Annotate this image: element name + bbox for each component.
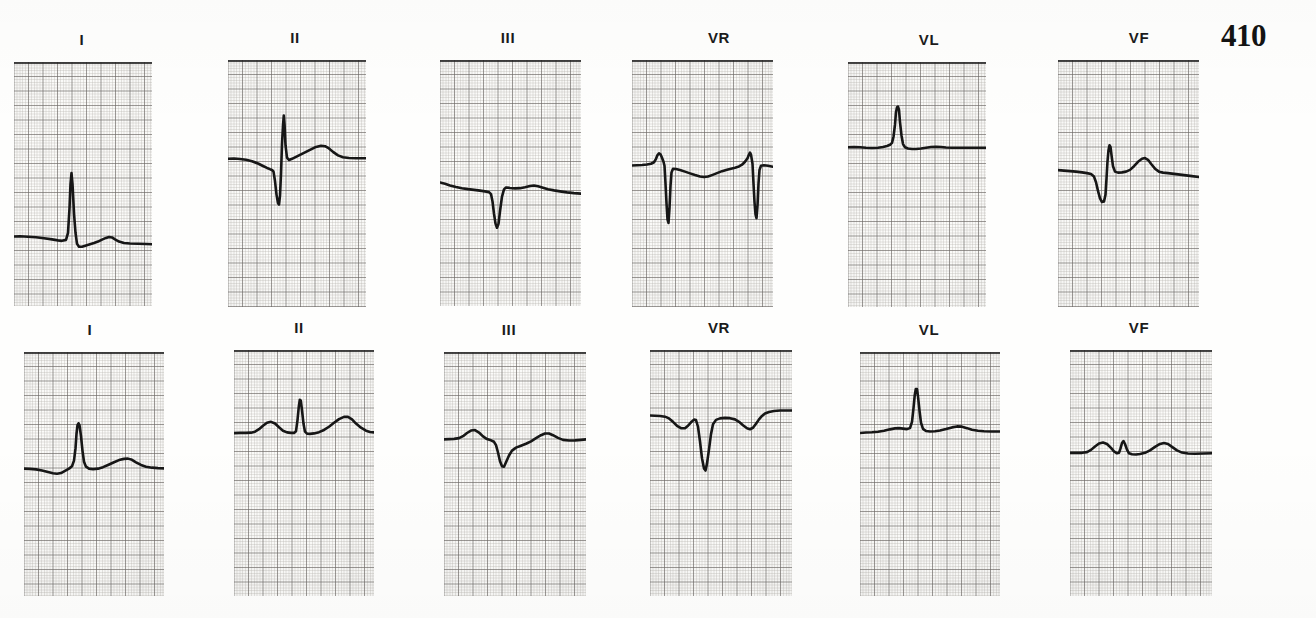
lead-label-vl-row0: VL xyxy=(919,32,939,47)
ecg-waveform-vr xyxy=(650,350,792,596)
ecg-strip-vr-row0 xyxy=(632,60,773,307)
ecg-waveform-iii xyxy=(440,60,581,306)
ecg-waveform-i xyxy=(24,352,164,596)
lead-label-iii-row0: III xyxy=(501,30,515,45)
ecg-waveform-iii xyxy=(444,352,586,596)
lead-label-ii-row1: II xyxy=(294,320,304,335)
ecg-strip-vl-row0 xyxy=(848,62,986,307)
lead-label-iii-row1: III xyxy=(502,322,516,337)
ecg-waveform-vl xyxy=(848,62,986,307)
ecg-strip-iii-row1 xyxy=(444,352,586,596)
lead-label-vf-row0: VF xyxy=(1129,30,1149,45)
ecg-waveform-vl xyxy=(860,352,1000,596)
ecg-strip-i-row1 xyxy=(24,352,164,596)
lead-label-vr-row1: VR xyxy=(708,320,730,335)
lead-label-i-row1: I xyxy=(88,322,93,337)
ecg-waveform-ii xyxy=(228,60,366,307)
ecg-strip-vf-row0 xyxy=(1058,60,1199,307)
ecg-waveform-vr xyxy=(632,60,773,307)
lead-label-vr-row0: VR xyxy=(708,30,730,45)
page-number: 410 xyxy=(1221,20,1266,51)
ecg-strip-vl-row1 xyxy=(860,352,1000,596)
lead-label-i-row0: I xyxy=(80,32,85,47)
lead-label-vl-row1: VL xyxy=(919,322,939,337)
ecg-strip-ii-row0 xyxy=(228,60,366,307)
ecg-waveform-vf xyxy=(1058,60,1199,307)
ecg-waveform-ii xyxy=(234,350,374,596)
lead-label-ii-row0: II xyxy=(290,30,300,45)
ecg-strip-ii-row1 xyxy=(234,350,374,596)
lead-label-vf-row1: VF xyxy=(1129,320,1149,335)
ecg-waveform-vf xyxy=(1070,350,1212,596)
ecg-strip-vr-row1 xyxy=(650,350,792,596)
ecg-strip-iii-row0 xyxy=(440,60,581,306)
ecg-strip-i-row0 xyxy=(14,62,152,306)
ecg-strip-vf-row1 xyxy=(1070,350,1212,596)
ecg-page: 410 IIIIIIVRVLVFIIIIIIVRVLVF xyxy=(0,0,1316,618)
ecg-waveform-i xyxy=(14,62,152,306)
